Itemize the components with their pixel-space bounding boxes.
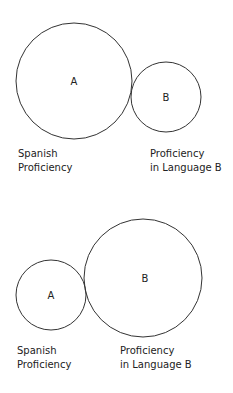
circle-b-letter: B — [163, 92, 170, 103]
label-line: Proficiency — [120, 344, 192, 358]
label-line: Proficiency — [150, 147, 222, 161]
circle-a-letter: A — [48, 290, 55, 301]
label-line: in Language B — [150, 161, 222, 175]
venn-diagrams: A B A B — [0, 0, 233, 393]
label-line: Spanish — [17, 344, 71, 358]
label-language-b-proficiency: Proficiency in Language B — [120, 344, 192, 372]
label-line: in Language B — [120, 358, 192, 372]
diagram-bottom: A B — [16, 219, 202, 337]
label-spanish-proficiency: Spanish Proficiency — [17, 344, 71, 372]
circle-b-letter: B — [142, 273, 149, 284]
label-line: Proficiency — [17, 358, 71, 372]
label-spanish-proficiency: Spanish Proficiency — [18, 147, 72, 175]
label-line: Spanish — [18, 147, 72, 161]
diagram-top: A B — [16, 23, 201, 139]
label-line: Proficiency — [18, 161, 72, 175]
label-language-b-proficiency: Proficiency in Language B — [150, 147, 222, 175]
circle-a-letter: A — [71, 76, 78, 87]
